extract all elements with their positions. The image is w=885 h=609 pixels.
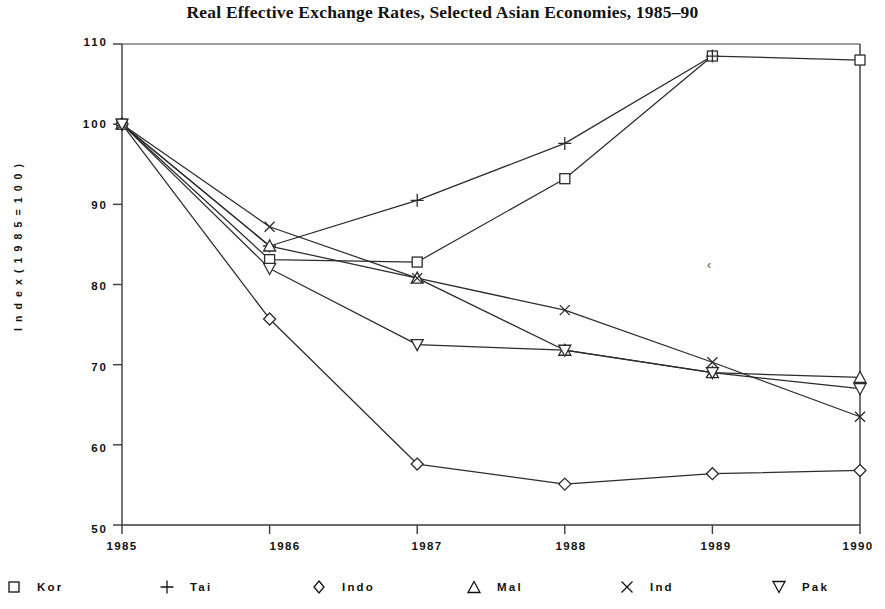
chart-figure: Real Effective Exchange Rates, Selected … — [0, 0, 885, 609]
plus-icon — [158, 578, 176, 596]
legend-label: Mal — [497, 581, 523, 593]
legend-item-mal: Mal — [465, 572, 523, 602]
diamond-icon — [310, 578, 328, 596]
triangle-down-icon — [770, 578, 788, 596]
legend-label: Ind — [650, 581, 674, 593]
legend-label: Pak — [802, 581, 829, 593]
legend-item-indo: Indo — [310, 572, 375, 602]
plot-area: I n d e x ( 1 9 8 5 = 1 0 0 ) 110 100 90… — [0, 0, 885, 565]
legend-label: Tai — [190, 581, 212, 593]
legend-item-tai: Tai — [158, 572, 212, 602]
legend-item-ind: Ind — [618, 572, 674, 602]
plot-svg — [0, 0, 885, 565]
chart-legend: Kor Tai Indo Mal Ind Pak — [0, 572, 885, 609]
legend-label: Kor — [37, 581, 63, 593]
legend-item-pak: Pak — [770, 572, 829, 602]
scan-artifact: ‹ — [707, 258, 711, 272]
legend-label: Indo — [342, 581, 375, 593]
triangle-up-icon — [465, 578, 483, 596]
cross-icon — [618, 578, 636, 596]
legend-item-kor: Kor — [5, 572, 63, 602]
square-icon — [5, 578, 23, 596]
